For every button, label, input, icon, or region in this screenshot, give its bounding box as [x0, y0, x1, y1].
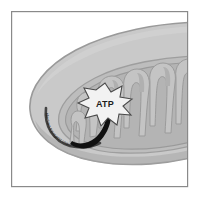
atp-label: ATP: [96, 99, 114, 109]
mitochondrion-diagram: electron transport chain ATP: [0, 0, 199, 202]
diagram-canvas: electron transport chain ATP: [0, 0, 199, 202]
